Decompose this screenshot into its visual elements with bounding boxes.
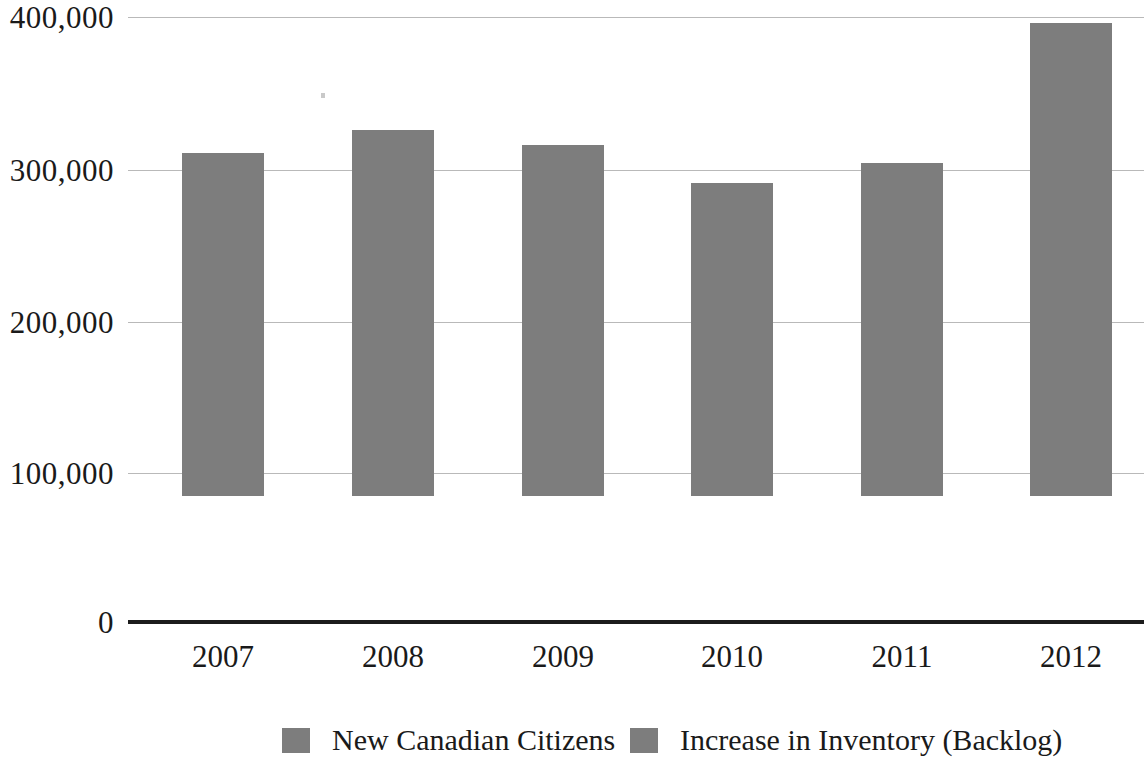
x-axis-label-2007: 2007 bbox=[163, 640, 283, 674]
bar-chart: 400,000 300,000 200,000 100,000 0 2007 2… bbox=[0, 0, 1144, 766]
legend-swatch-icon bbox=[630, 728, 658, 753]
bar-2012[interactable] bbox=[1030, 23, 1112, 496]
x-axis-label-2009: 2009 bbox=[503, 640, 623, 674]
bar-2010[interactable] bbox=[691, 183, 773, 496]
bar-2008[interactable] bbox=[352, 130, 434, 496]
bar-2009[interactable] bbox=[522, 145, 604, 496]
x-axis-label-2012: 2012 bbox=[1011, 640, 1131, 674]
bars-layer bbox=[0, 0, 1144, 640]
x-axis-label-2011: 2011 bbox=[842, 640, 962, 674]
legend-swatch-icon bbox=[282, 728, 310, 753]
x-axis-label-2010: 2010 bbox=[672, 640, 792, 674]
legend-item-increase-in-inventory[interactable]: Increase in Inventory (Backlog) bbox=[630, 720, 1062, 760]
bar-2011[interactable] bbox=[861, 163, 943, 496]
legend-item-new-canadian-citizens[interactable]: New Canadian Citizens bbox=[282, 720, 615, 760]
legend-label: New Canadian Citizens bbox=[332, 723, 615, 757]
x-axis-label-2008: 2008 bbox=[333, 640, 453, 674]
bar-2007[interactable] bbox=[182, 153, 264, 496]
chart-legend: New Canadian Citizens Increase in Invent… bbox=[0, 712, 1144, 766]
legend-label: Increase in Inventory (Backlog) bbox=[680, 723, 1062, 757]
